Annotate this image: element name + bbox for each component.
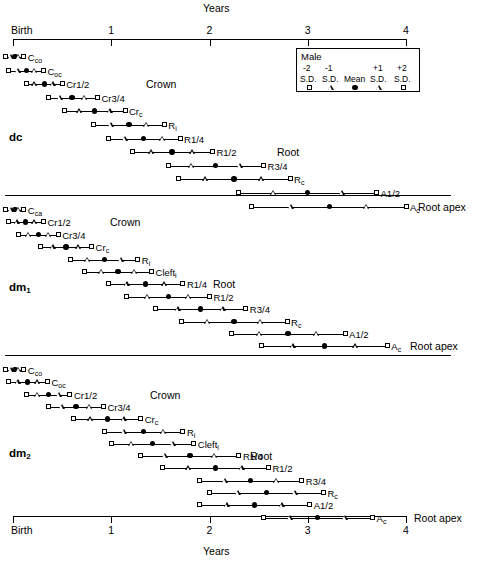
marker-plus2sd — [41, 68, 46, 73]
marker-minus2sd — [102, 429, 107, 434]
marker-minus1sd — [222, 478, 228, 483]
stage-label-r12: R1/2 — [216, 148, 236, 158]
group-label-root: Root — [250, 450, 272, 462]
marker-minus2sd — [124, 294, 129, 299]
marker-minus2sd — [46, 404, 51, 409]
marker-plus1sd — [159, 136, 165, 141]
marker-minus2sd — [6, 219, 11, 224]
marker-plus1sd — [131, 269, 137, 274]
marker-minus1sd — [57, 95, 63, 100]
data-row: Ri — [0, 120, 479, 131]
marker-plus1sd — [211, 453, 217, 458]
marker-minus1sd — [25, 232, 31, 237]
stage-label-cco: Cco — [28, 53, 42, 64]
data-row: A1/2 — [0, 500, 479, 511]
marker-minus2sd — [166, 163, 171, 168]
marker-plus2sd — [60, 81, 65, 86]
data-row: R1/4 — [0, 451, 479, 462]
marker-plus1sd — [86, 404, 92, 409]
marker-minus2sd — [109, 441, 114, 446]
marker-minus2sd — [106, 281, 111, 286]
data-row: A1/2 — [0, 329, 479, 340]
marker-plus2sd — [67, 392, 72, 397]
marker-plus2sd — [162, 122, 167, 127]
marker-plus1sd — [75, 244, 81, 249]
marker-plus1sd — [56, 392, 62, 397]
data-row: Crc — [0, 242, 479, 253]
marker-minus1sd — [31, 81, 37, 86]
marker-plus1sd — [161, 281, 167, 286]
marker-minus2sd — [176, 176, 181, 181]
marker-mean — [198, 306, 203, 311]
marker-minus1sd — [15, 379, 21, 384]
data-row: R3/4 — [0, 304, 479, 315]
marker-minus2sd — [130, 149, 135, 154]
stage-label-a12: A1/2 — [381, 189, 401, 199]
marker-minus1sd — [14, 219, 20, 224]
marker-mean — [141, 136, 146, 141]
group-label-root-apex: Root apex — [414, 512, 462, 524]
data-row: Coc — [0, 377, 479, 388]
marker-plus1sd — [352, 343, 358, 348]
marker-mean — [92, 108, 97, 113]
data-row: Rc — [0, 174, 479, 185]
marker-plus1sd — [257, 319, 263, 324]
axis-tick-label-4: 4 — [403, 25, 409, 36]
marker-plus2sd — [243, 306, 248, 311]
marker-mean — [126, 122, 131, 127]
marker-minus1sd — [84, 257, 90, 262]
section-divider — [5, 355, 451, 356]
marker-minus2sd — [46, 95, 51, 100]
tooth-label-dm1: dm1 — [9, 281, 31, 293]
data-row: R3/4 — [0, 161, 479, 172]
group-label-crown: Crown — [110, 216, 140, 228]
marker-plus1sd — [31, 219, 37, 224]
marker-plus2sd — [95, 95, 100, 100]
marker-minus1sd — [98, 269, 104, 274]
marker-minus1sd — [185, 465, 191, 470]
marker-minus2sd — [160, 465, 165, 470]
marker-plus2sd — [343, 331, 348, 336]
marker-mean — [285, 331, 290, 336]
marker-minus1sd — [108, 122, 114, 127]
marker-plus2sd — [191, 441, 196, 446]
data-row: Cr1/2 — [0, 79, 479, 90]
marker-plus2sd — [385, 343, 390, 348]
stage-label-cr12: Cr1/2 — [74, 391, 97, 401]
axis-tick-3 — [308, 39, 309, 46]
marker-mean — [322, 343, 327, 348]
axis-tick-label-3: 3 — [305, 525, 311, 536]
stage-label-ri: Ri — [142, 256, 150, 267]
marker-mean — [25, 379, 30, 384]
marker-minus1sd — [175, 306, 181, 311]
marker-mean — [42, 81, 47, 86]
marker-mean — [150, 441, 155, 446]
stage-label-rc: Rc — [327, 489, 337, 500]
data-row: Cco — [0, 52, 479, 63]
axis-tick-4 — [406, 39, 407, 46]
marker-plus1sd — [292, 490, 298, 495]
marker-mean — [23, 219, 28, 224]
marker-minus1sd — [15, 68, 21, 73]
marker-plus1sd — [107, 108, 113, 113]
axis-tick-birth — [13, 39, 14, 46]
stage-label-rc: Rc — [291, 318, 301, 329]
data-row: Coc — [0, 66, 479, 77]
marker-plus1sd — [220, 306, 226, 311]
marker-plus1sd — [258, 176, 264, 181]
marker-mean — [264, 490, 269, 495]
marker-mean — [252, 502, 257, 507]
marker-plus1sd — [313, 331, 319, 336]
data-row: Cr3/4 — [0, 93, 479, 104]
marker-minus2sd — [197, 502, 202, 507]
marker-mean — [231, 176, 236, 181]
marker-mean — [213, 465, 218, 470]
stage-label-cr12: Cr1/2 — [66, 80, 89, 90]
marker-minus2sd — [207, 490, 212, 495]
stage-label-crc: Crc — [96, 243, 110, 254]
group-label-root: Root — [213, 278, 235, 290]
stage-label-cr12: Cr1/2 — [47, 218, 70, 228]
marker-mean — [115, 269, 120, 274]
marker-plus2sd — [180, 281, 185, 286]
marker-minus1sd — [50, 244, 56, 249]
